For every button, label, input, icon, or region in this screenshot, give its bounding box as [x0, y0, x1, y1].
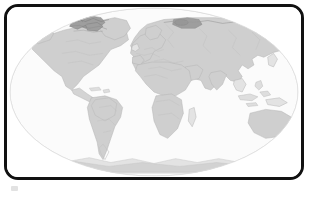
map-frame	[4, 4, 304, 180]
world-map-canvas	[7, 7, 301, 177]
region-kara-blob	[175, 20, 189, 26]
figure-root	[0, 0, 316, 197]
edge-artifact-mark	[11, 186, 18, 191]
